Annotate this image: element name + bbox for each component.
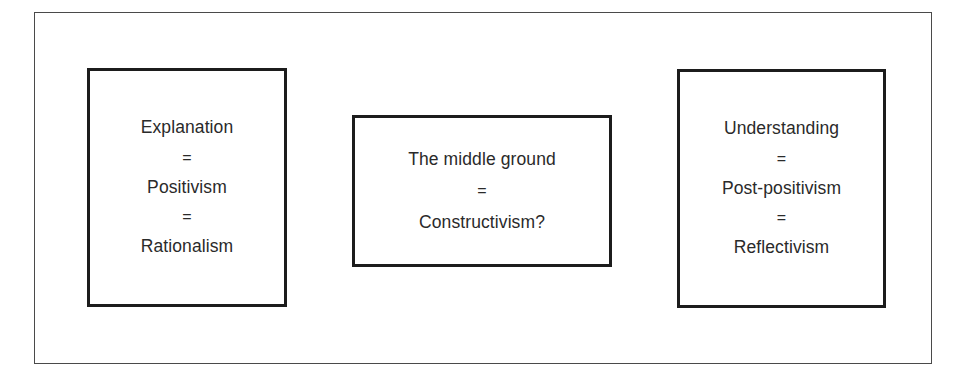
box-middle-ground-line-1: The middle ground [408, 151, 556, 169]
box-understanding-line-3: Reflectivism [734, 239, 830, 257]
box-explanation: Explanation = Positivism = Rationalism [87, 68, 287, 307]
box-middle-ground-equals-1: = [477, 183, 486, 199]
box-explanation-line-2: Positivism [147, 179, 227, 197]
box-explanation-equals-1: = [182, 150, 191, 166]
box-middle-ground: The middle ground = Constructivism? [352, 115, 612, 267]
box-middle-ground-line-2: Constructivism? [419, 214, 545, 232]
box-explanation-line-3: Rationalism [141, 238, 234, 256]
box-understanding-line-2: Post-positivism [722, 180, 841, 198]
box-explanation-equals-2: = [182, 209, 191, 225]
box-explanation-line-1: Explanation [141, 119, 234, 137]
box-understanding-equals-1: = [777, 151, 786, 167]
box-understanding: Understanding = Post-positivism = Reflec… [677, 69, 886, 308]
outer-frame: Explanation = Positivism = Rationalism T… [34, 12, 932, 364]
box-understanding-line-1: Understanding [724, 120, 839, 138]
box-understanding-equals-2: = [777, 210, 786, 226]
diagram-canvas: Explanation = Positivism = Rationalism T… [0, 0, 959, 383]
